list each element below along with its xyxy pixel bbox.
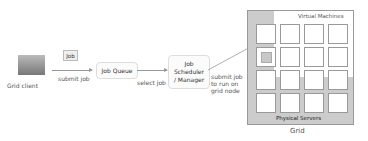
grid-node-cell xyxy=(256,47,276,67)
job-tag: Job xyxy=(63,50,78,61)
grid-node-cell xyxy=(256,93,276,113)
grid-node-cell xyxy=(328,93,348,113)
label-line: grid node xyxy=(211,87,243,94)
grid-node-cell xyxy=(304,47,324,67)
physical-servers-label: Physical Servers xyxy=(276,115,321,121)
select-job-arrow xyxy=(137,70,167,71)
job-queue-node: Job Queue xyxy=(96,62,138,79)
grid-node-cell xyxy=(280,93,300,113)
grid-client-label: Grid client xyxy=(7,82,38,89)
running-job-icon xyxy=(261,52,272,63)
grid-container: Virtual Machines Physical Servers xyxy=(247,10,354,125)
grid-node-cell xyxy=(328,24,348,44)
label-line: submit job xyxy=(211,73,243,80)
grid-client-icon xyxy=(18,55,45,75)
grid-node-cell xyxy=(304,93,324,113)
virtual-machines-label: Virtual Machines xyxy=(298,13,344,19)
scheduler-line: / Manager xyxy=(174,76,204,84)
submit-to-node-label: submit job to run on grid node xyxy=(211,73,243,94)
grid-node-cell xyxy=(280,24,300,44)
scheduler-node: Job Scheduler / Manager xyxy=(168,55,210,89)
label-line: to run on xyxy=(211,80,243,87)
select-job-label: select job xyxy=(137,79,166,86)
grid-node-cell xyxy=(304,70,324,90)
grid-node-cell xyxy=(256,70,276,90)
submit-job-label: submit job xyxy=(58,75,90,82)
grid-node-cell xyxy=(256,24,276,44)
grid-title: Grid xyxy=(290,127,305,135)
grid-node-cell xyxy=(328,70,348,90)
grid-node-cell xyxy=(280,70,300,90)
grid-node-cell xyxy=(280,47,300,67)
virtual-machines-region: Virtual Machines xyxy=(274,11,353,77)
submit-job-arrow xyxy=(52,70,92,71)
scheduler-line: Job xyxy=(184,60,193,68)
scheduler-line: Scheduler xyxy=(174,68,204,76)
grid-node-cell xyxy=(304,24,324,44)
grid-node-cell xyxy=(328,47,348,67)
